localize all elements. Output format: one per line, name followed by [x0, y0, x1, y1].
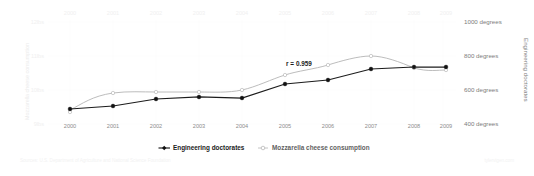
left-axis-ticks: 12lbs 11lbs 10lbs 9lbs	[31, 19, 45, 127]
correlation-annotation: r = 0.959	[286, 60, 312, 67]
right-axis-title: Engineering doctorates	[523, 38, 530, 102]
footer-attribution: tylervigen.com	[484, 158, 514, 163]
right-tick-3: 400 degrees	[464, 120, 498, 127]
top-tick-6: 2006	[322, 10, 334, 16]
left-axis-title: Mozzarella cheese consumption	[24, 43, 30, 120]
plot-area-background	[48, 20, 456, 126]
legend-marker-mozzarella-icon	[261, 146, 265, 150]
left-tick-0: 12lbs	[31, 19, 45, 25]
top-tick-3: 2003	[193, 10, 205, 16]
bottom-tick-3: 2003	[193, 123, 205, 129]
bottom-tick-0: 2000	[64, 123, 76, 129]
bottom-tick-8: 2008	[408, 123, 420, 129]
top-tick-1: 2001	[107, 10, 119, 16]
top-tick-2: 2002	[150, 10, 162, 16]
top-tick-4: 2004	[236, 10, 248, 16]
right-tick-0: 1000 degrees	[464, 18, 502, 25]
top-tick-7: 2007	[365, 10, 377, 16]
bottom-tick-5: 2005	[279, 123, 291, 129]
bottom-tick-9: 2009	[440, 123, 452, 129]
bottom-tick-7: 2007	[365, 123, 377, 129]
right-axis-ticks: 1000 degrees 800 degrees 600 degrees 400…	[464, 18, 502, 127]
top-tick-0: 2000	[64, 10, 76, 16]
top-tick-5: 2005	[279, 10, 291, 16]
footer-sources: Sources: U.S. Department of Agriculture …	[20, 158, 171, 163]
bottom-tick-4: 2004	[236, 123, 248, 129]
chart-svg: 2000 2001 2002 2003 2004 2005 2006 2007 …	[0, 0, 534, 176]
legend-label-doctorates: Engineering doctorates	[173, 144, 245, 152]
right-tick-2: 600 degrees	[464, 86, 498, 93]
bottom-tick-1: 2001	[107, 123, 119, 129]
legend-label-mozzarella: Mozzarella cheese consumption	[272, 144, 370, 152]
bottom-tick-6: 2006	[322, 123, 334, 129]
left-tick-1: 11lbs	[31, 53, 44, 59]
bottom-tick-2: 2002	[150, 123, 162, 129]
top-tick-9: 2009	[440, 10, 452, 16]
left-tick-2: 10lbs	[31, 87, 45, 93]
correlation-chart: 2000 2001 2002 2003 2004 2005 2006 2007 …	[0, 0, 534, 176]
top-axis-ticks: 2000 2001 2002 2003 2004 2005 2006 2007 …	[64, 10, 452, 16]
top-tick-8: 2008	[408, 10, 420, 16]
right-tick-1: 800 degrees	[464, 52, 498, 59]
left-tick-3: 9lbs	[34, 121, 44, 127]
chart-legend: Engineering doctorates Mozzarella cheese…	[159, 144, 370, 152]
